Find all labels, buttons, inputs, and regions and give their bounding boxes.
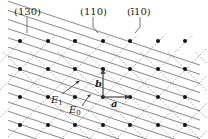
lattice-point: [73, 95, 77, 99]
lattice-diagram: (130) (110) (ī10) b a E1 E0: [0, 0, 207, 139]
label-m110: (ī10): [127, 6, 151, 17]
lattice-point: [46, 67, 50, 71]
plane-110-line: [0, 35, 55, 137]
lattice-point: [18, 67, 22, 71]
lattice-point: [128, 39, 132, 43]
lattice-point: [156, 39, 160, 43]
lattice-point: [156, 67, 160, 71]
plane-130-line: [8, 56, 200, 120]
lattice-point: [101, 123, 105, 127]
lattice-point: [128, 123, 132, 127]
lattice-point: [156, 123, 160, 127]
lattice-point: [183, 123, 187, 127]
plane-130-line: [8, 29, 200, 93]
lattice-point: [183, 67, 187, 71]
lattice-point: [18, 39, 22, 43]
plane-m110-line: [196, 52, 208, 137]
lattice-point: [101, 39, 105, 43]
label-vec-b: b: [95, 78, 102, 89]
lattice-point: [46, 39, 50, 43]
lattice-point: [46, 123, 50, 127]
lattice-point: [73, 39, 77, 43]
label-110: (110): [80, 6, 107, 17]
lattice-point: [183, 39, 187, 43]
leader-m110: [135, 17, 140, 33]
lattice-point: [18, 95, 22, 99]
label-130: (130): [14, 6, 41, 17]
lattice-point: [183, 95, 187, 99]
plane-110-line: [118, 35, 207, 137]
lattice-point: [46, 95, 50, 99]
lattice-point: [73, 67, 77, 71]
label-vec-a: a: [111, 98, 117, 109]
plane-110-line: [201, 35, 208, 137]
lattice-point: [156, 95, 160, 99]
lattice-point: [18, 123, 22, 127]
lattice-point: [73, 123, 77, 127]
E0-pointer-head: [87, 94, 91, 98]
lattice-point: [128, 67, 132, 71]
